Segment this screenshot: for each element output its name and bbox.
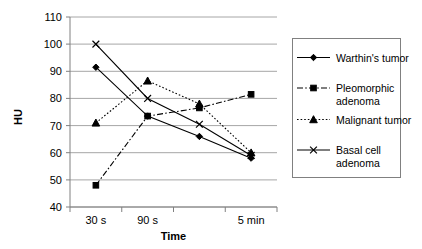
x-tick-label: 30 s (86, 214, 107, 226)
y-tick-label: 70 (50, 120, 62, 132)
y-tick-labels: 110 100 90 80 70 60 50 40 (44, 11, 62, 213)
y-tick-label: 60 (50, 147, 62, 159)
line-chart: 110 100 90 80 70 60 50 40 HU 30 s 90 s 5… (0, 0, 422, 249)
y-tick-label: 80 (50, 92, 62, 104)
legend-label: Malignant tumor (336, 114, 412, 126)
y-tick-label: 90 (50, 65, 62, 77)
y-tick-label: 40 (50, 201, 62, 213)
y-tick-marks (66, 17, 70, 207)
y-tick-label: 100 (44, 38, 62, 50)
y-tick-label: 110 (44, 11, 62, 23)
legend-label: Basal cell (336, 144, 381, 156)
legend-label: Pleomorphic (336, 82, 394, 94)
y-tick-label: 50 (50, 174, 62, 186)
legend-label-line2: adenoma (336, 157, 380, 169)
x-tick-labels: 30 s 90 s 5 min (86, 214, 265, 226)
x-tick-marks (70, 207, 277, 212)
data-point-marker (93, 182, 99, 188)
data-point-marker (145, 113, 151, 119)
x-axis-title: Time (161, 230, 186, 242)
y-axis-title: HU (12, 109, 24, 125)
legend-label-line2: adenoma (336, 95, 380, 107)
x-tick-label: 5 min (238, 214, 265, 226)
chart-container: 110 100 90 80 70 60 50 40 HU 30 s 90 s 5… (0, 0, 422, 249)
legend-marker (311, 85, 317, 91)
data-point-marker (248, 92, 254, 98)
x-tick-label: 90 s (137, 214, 158, 226)
legend-label: Warthin's tumor (336, 52, 409, 64)
